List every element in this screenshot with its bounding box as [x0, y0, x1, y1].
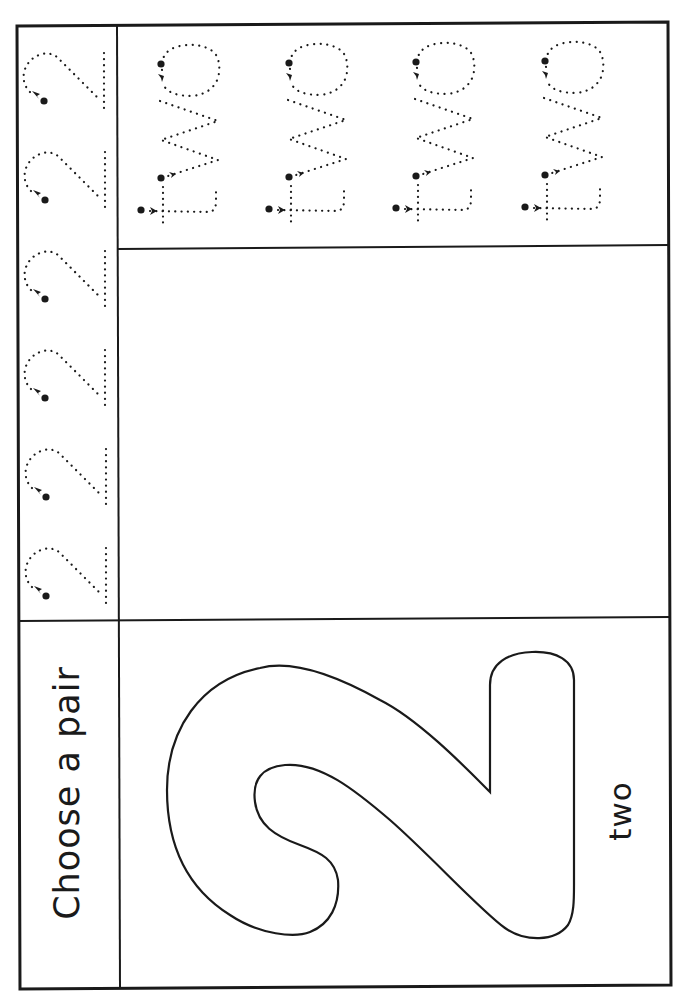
drawing-area[interactable] [121, 250, 667, 616]
dotted-numeral-2[interactable] [26, 449, 106, 504]
worksheet-page: Choose a pair two [0, 0, 686, 993]
row-divider-bottom [18, 617, 670, 621]
dotted-word-two[interactable] [521, 42, 603, 221]
dotted-word-two[interactable] [392, 43, 474, 222]
dotted-numeral-2[interactable] [25, 350, 105, 405]
dotted-numeral-2[interactable] [25, 152, 105, 207]
number-word-label: two [605, 781, 636, 840]
dotted-numeral-2[interactable] [26, 548, 106, 603]
dotted-numeral-2[interactable] [25, 251, 105, 306]
row-divider-top [118, 245, 669, 249]
outline-numeral-2[interactable] [167, 652, 574, 938]
dotted-word-two[interactable] [137, 45, 219, 224]
dotted-word-two[interactable] [265, 44, 347, 223]
numeral-trace-column [24, 53, 106, 603]
dotted-numeral-2[interactable] [24, 53, 104, 108]
instruction-label: Choose a pair [50, 666, 85, 920]
word-trace-box [137, 42, 603, 224]
column-divider [117, 25, 120, 988]
